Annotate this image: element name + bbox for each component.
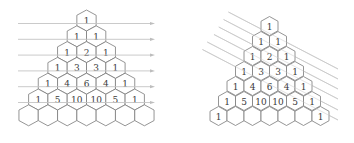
arrowhead-icon — [150, 22, 155, 25]
arrowhead-icon — [150, 101, 155, 104]
cell-value: 5 — [241, 97, 247, 107]
cell-value: 1 — [267, 22, 273, 32]
cell-value: 1 — [216, 112, 222, 122]
cell-value: 10 — [255, 97, 267, 107]
cell-value: 2 — [84, 48, 90, 58]
cell-value: 1 — [35, 95, 41, 105]
cell-value: 1 — [318, 112, 324, 122]
cell-value: 4 — [64, 79, 70, 89]
cell-value: 1 — [122, 79, 128, 89]
cell-value: 6 — [84, 79, 90, 89]
cell-value: 1 — [64, 48, 70, 58]
cell-value: 1 — [55, 63, 61, 73]
cell-value: 1 — [132, 95, 138, 105]
cell-value: 10 — [90, 95, 102, 105]
cell-value: 1 — [84, 16, 90, 26]
hex-cells: 1111211331146411510105111 — [210, 17, 329, 126]
cell-value: 1 — [113, 63, 119, 73]
cell-value: 1 — [103, 48, 109, 58]
cell-value: 10 — [71, 95, 83, 105]
cell-value: 4 — [103, 79, 109, 89]
cell-value: 5 — [55, 95, 61, 105]
cell-value: 1 — [45, 79, 51, 89]
arrowhead-icon — [150, 85, 155, 88]
pascal-triangle-diagonal-figure: 1111211331146411510105111 — [177, 0, 354, 143]
cell-value: 1 — [224, 97, 230, 107]
arrowhead-icon — [150, 38, 155, 41]
cell-value: 10 — [272, 97, 284, 107]
hex-cells: 11112113311464115101051 — [19, 10, 154, 126]
cell-value: 1 — [301, 82, 307, 92]
cell-value: 3 — [93, 63, 99, 73]
cell-value: 4 — [250, 82, 256, 92]
cell-value: 3 — [74, 63, 80, 73]
cell-value: 1 — [233, 82, 239, 92]
pascal-triangle-horizontal-figure: 11112113311464115101051 — [0, 0, 177, 143]
arrowhead-icon — [150, 54, 155, 57]
cell-value: 1 — [74, 32, 80, 42]
cell-value: 5 — [113, 95, 119, 105]
cell-value: 1 — [93, 32, 99, 42]
arrowhead-icon — [150, 69, 155, 72]
